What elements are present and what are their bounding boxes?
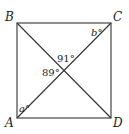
square-diagram: B C A D 91° 89° b° a° bbox=[0, 0, 129, 134]
angle-label-89: 89° bbox=[42, 67, 60, 78]
vertex-label-c: C bbox=[113, 10, 122, 24]
angle-label-91: 91° bbox=[57, 53, 75, 64]
angle-label-b: b° bbox=[91, 27, 102, 38]
vertex-label-a: A bbox=[4, 116, 14, 130]
angle-label-a: a° bbox=[19, 103, 30, 114]
vertex-label-d: D bbox=[112, 116, 123, 130]
vertex-label-b: B bbox=[4, 10, 14, 24]
